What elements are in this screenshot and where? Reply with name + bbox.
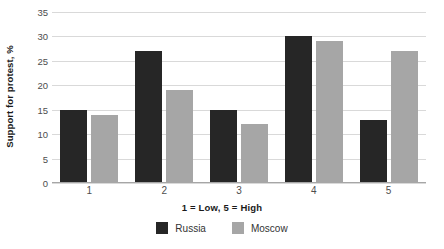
bar-russia-4[interactable] — [285, 36, 312, 183]
bar-group — [127, 12, 202, 183]
bar-group — [276, 12, 351, 183]
x-tick-label: 2 — [161, 185, 167, 196]
bar-russia-5[interactable] — [360, 120, 387, 184]
chart-legend: RussiaMoscow — [0, 222, 444, 234]
legend-swatch-moscow — [232, 222, 244, 234]
y-tick-label: 25 — [37, 55, 48, 66]
gridline — [52, 183, 426, 184]
x-tick-label: 5 — [386, 185, 392, 196]
x-axis-tick-labels: 12345 — [52, 185, 426, 201]
y-tick-label: 5 — [43, 153, 48, 164]
y-tick-label: 30 — [37, 31, 48, 42]
legend-item-moscow[interactable]: Moscow — [232, 222, 288, 234]
bar-chart: Support for protest, % 05101520253035 12… — [0, 0, 444, 249]
bar-moscow-1[interactable] — [91, 115, 118, 183]
y-tick-label: 10 — [37, 129, 48, 140]
bar-moscow-3[interactable] — [241, 124, 268, 183]
bar-russia-2[interactable] — [135, 51, 162, 183]
bar-moscow-4[interactable] — [316, 41, 343, 183]
x-tick-label: 4 — [311, 185, 317, 196]
legend-swatch-russia — [156, 222, 168, 234]
x-axis-title: 1 = Low, 5 = High — [0, 202, 444, 213]
y-tick-label: 15 — [37, 104, 48, 115]
bar-group — [202, 12, 277, 183]
bar-russia-1[interactable] — [60, 110, 87, 183]
y-tick-label: 0 — [43, 178, 48, 189]
bar-group — [52, 12, 127, 183]
y-axis-tick-labels: 05101520253035 — [20, 12, 48, 183]
legend-label: Moscow — [251, 223, 288, 234]
plot-area — [52, 12, 426, 183]
bar-russia-3[interactable] — [210, 110, 237, 183]
legend-item-russia[interactable]: Russia — [156, 222, 206, 234]
y-tick-label: 20 — [37, 80, 48, 91]
y-axis-title-text: Support for protest, % — [4, 45, 15, 147]
x-tick-label: 3 — [236, 185, 242, 196]
x-tick-label: 1 — [87, 185, 93, 196]
x-axis-line — [52, 182, 426, 183]
y-axis-title: Support for protest, % — [0, 0, 18, 192]
legend-label: Russia — [175, 223, 206, 234]
bar-moscow-5[interactable] — [391, 51, 418, 183]
bar-moscow-2[interactable] — [166, 90, 193, 183]
bar-group — [351, 12, 426, 183]
y-tick-label: 35 — [37, 7, 48, 18]
